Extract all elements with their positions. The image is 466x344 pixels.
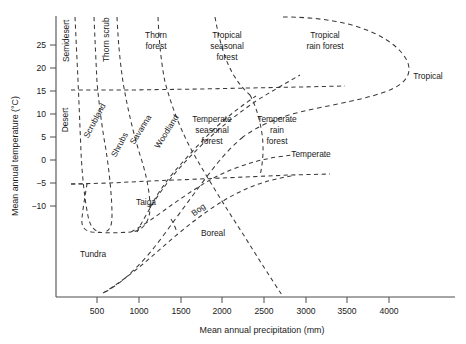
- biome-label-woodland: Woodland: [152, 113, 181, 150]
- biome-label-tropical-seasonal-line1: Tropical: [212, 30, 242, 40]
- y-tick-label-5: 5: [41, 132, 46, 142]
- x-axis-ticks: [97, 297, 389, 303]
- x-axis-tick-labels: 500 1000 1500 2000 2500 3000 3500 4000: [90, 306, 399, 316]
- biome-label-temp-seasonal-line1: Temperate: [192, 114, 232, 124]
- y-axis-title: Mean annual temperature (°C): [10, 96, 20, 216]
- boreal-lower-boundary: [103, 176, 292, 293]
- whittaker-biome-chart: 25 20 15 10 5 0 −5 −10 500 1000 1500 200…: [0, 0, 466, 344]
- biome-label-temp-seasonal-line3: forest: [202, 136, 224, 146]
- biome-label-taiga: Taiga: [136, 197, 156, 207]
- tundra-boundary: [71, 184, 131, 233]
- zone-label-tropical: Tropical: [413, 71, 443, 81]
- y-tick-label-10: 10: [36, 109, 46, 119]
- biome-label-semidesert: Semidesert: [61, 19, 71, 62]
- biome-label-thorn-forest-line1: Thorn: [145, 30, 167, 40]
- y-tick-label-25: 25: [36, 40, 46, 50]
- biome-label-tropical-seasonal-line2: seasonal: [210, 41, 244, 51]
- x-tick-label-3500: 3500: [337, 306, 356, 316]
- biome-label-thorn-forest-line2: forest: [146, 41, 168, 51]
- y-tick-label-0: 0: [41, 155, 46, 165]
- biome-label-tropical-rain-line2: rain forest: [306, 41, 344, 51]
- biome-label-bog: Bog: [189, 201, 207, 218]
- x-tick-label-2500: 2500: [254, 306, 273, 316]
- tropical-temperate-divider: [71, 86, 345, 90]
- y-axis-tick-labels: 25 20 15 10 5 0 −5 −10: [31, 40, 46, 211]
- x-tick-label-2000: 2000: [212, 306, 231, 316]
- tempseasonal-temprain-boundary: [250, 95, 263, 176]
- y-tick-label-neg10: −10: [31, 201, 46, 211]
- y-tick-label-neg5: −5: [36, 178, 46, 188]
- biome-label-temp-rain-line1: Temperate: [257, 114, 297, 124]
- x-tick-label-4000: 4000: [379, 306, 398, 316]
- x-axis-title: Mean annual precipitation (mm): [200, 325, 325, 335]
- x-tick-label-500: 500: [90, 306, 105, 316]
- zone-label-temperate: Temperate: [291, 149, 331, 159]
- savanna-woodland-boundary: [137, 75, 300, 232]
- y-tick-label-15: 15: [36, 86, 46, 96]
- x-tick-label-1000: 1000: [129, 306, 148, 316]
- taiga-bog-boundary: [131, 155, 294, 232]
- biome-label-shrubs: Shrubs: [109, 131, 130, 159]
- biome-label-thorn-scrub: Thorn scrub: [101, 17, 111, 62]
- biome-label-temp-rain-line3: forest: [267, 136, 289, 146]
- x-tick-label-3000: 3000: [296, 306, 315, 316]
- biome-label-savanna: Savanna: [127, 112, 153, 146]
- temperate-boreal-outer-boundary: [103, 137, 243, 293]
- biome-label-desert: Desert: [60, 107, 70, 132]
- y-tick-label-20: 20: [36, 63, 46, 73]
- biome-label-temp-rain-line2: rain: [270, 125, 284, 135]
- chart-canvas: 25 20 15 10 5 0 −5 −10 500 1000 1500 200…: [0, 0, 466, 344]
- biome-label-boreal: Boreal: [201, 228, 225, 238]
- biome-label-temp-seasonal-line2: seasonal: [195, 125, 229, 135]
- biome-label-tropical-rain-line1: Tropical: [310, 30, 340, 40]
- y-axis-ticks: [50, 45, 56, 206]
- x-tick-label-1500: 1500: [171, 306, 190, 316]
- biome-label-tropical-seasonal-line3: forest: [217, 52, 239, 62]
- biome-label-tundra: Tundra: [80, 249, 107, 259]
